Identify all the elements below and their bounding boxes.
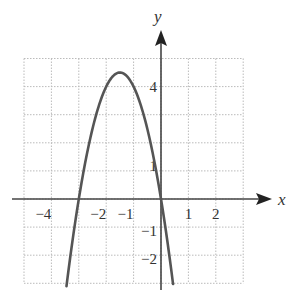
y-tick-label: −2 bbox=[141, 251, 157, 267]
x-tick-label: −2 bbox=[90, 206, 106, 222]
x-tick-label: 1 bbox=[185, 206, 193, 222]
axes: x y bbox=[12, 7, 286, 290]
chart-canvas: x y −4−2−11241−1−2 bbox=[0, 0, 299, 300]
x-tick-label: 2 bbox=[212, 206, 220, 222]
x-tick-label: −1 bbox=[118, 206, 134, 222]
y-axis-label: y bbox=[152, 7, 162, 26]
parabola-curve bbox=[66, 73, 173, 287]
x-axis-label: x bbox=[277, 190, 286, 209]
y-tick-label: −1 bbox=[141, 223, 157, 239]
y-tick-label: 4 bbox=[150, 79, 158, 95]
tick-labels: −4−2−11241−1−2 bbox=[35, 79, 219, 268]
x-tick-label: −4 bbox=[35, 206, 51, 222]
grid bbox=[24, 59, 243, 284]
